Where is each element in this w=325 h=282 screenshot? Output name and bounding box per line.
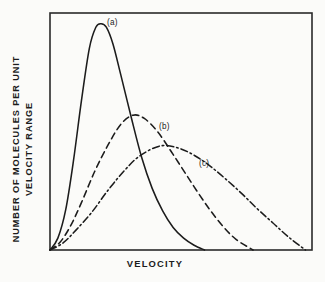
curve-label-a: (a)	[107, 18, 118, 27]
chart-figure: NUMBER OF MOLECULES PER UNIT VELOCITY RA…	[0, 0, 325, 282]
y-axis-label-line-1: NUMBER OF MOLECULES PER UNIT	[10, 56, 23, 243]
curve-label-c: (c)	[199, 159, 209, 168]
figure-background	[0, 0, 325, 282]
curve-label-b: (b)	[159, 122, 170, 131]
y-axis-label-line-2: VELOCITY RANGE	[23, 102, 36, 196]
x-axis-label: VELOCITY	[50, 258, 260, 269]
y-axis-label: NUMBER OF MOLECULES PER UNIT VELOCITY RA…	[0, 30, 46, 268]
chart-canvas	[0, 0, 325, 282]
